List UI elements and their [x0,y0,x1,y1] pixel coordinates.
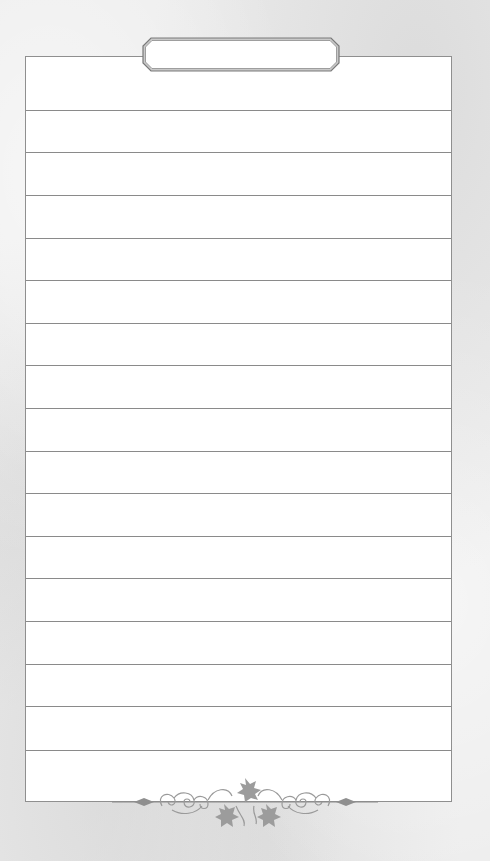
writing-line[interactable] [26,621,451,622]
lined-paper-sheet [25,56,452,802]
writing-line[interactable] [26,110,451,111]
writing-line[interactable] [26,408,451,409]
title-plaque [142,37,340,72]
writing-line[interactable] [26,195,451,196]
writing-line[interactable] [26,536,451,537]
writing-line[interactable] [26,451,451,452]
plaque-title[interactable] [142,37,340,72]
writing-line[interactable] [26,750,451,751]
writing-line[interactable] [26,280,451,281]
writing-line[interactable] [26,493,451,494]
writing-line[interactable] [26,152,451,153]
writing-line[interactable] [26,706,451,707]
writing-line[interactable] [26,323,451,324]
writing-line[interactable] [26,238,451,239]
writing-line[interactable] [26,365,451,366]
writing-line[interactable] [26,578,451,579]
writing-line[interactable] [26,664,451,665]
ivy-flourish-ornament-icon [112,776,378,830]
